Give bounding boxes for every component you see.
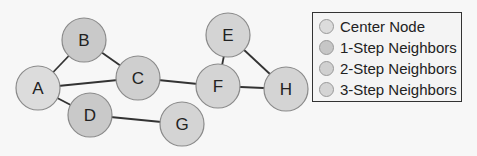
node-label: G <box>175 115 188 134</box>
node-label: A <box>32 79 44 98</box>
legend-swatch-icon <box>319 61 334 76</box>
node-E: E <box>206 13 250 57</box>
legend-label: 2-Step Neighbors <box>340 60 457 77</box>
legend-item-center-node: Center Node <box>319 16 461 37</box>
legend-swatch-icon <box>319 82 334 97</box>
node-label: C <box>132 69 144 88</box>
legend-label: Center Node <box>340 18 425 35</box>
node-label: F <box>213 77 223 96</box>
node-label: H <box>280 80 292 99</box>
legend-item-2-step: 2-Step Neighbors <box>319 58 461 79</box>
legend-item-3-step: 3-Step Neighbors <box>319 79 461 100</box>
node-label: E <box>222 26 233 45</box>
legend: Center Node 1-Step Neighbors 2-Step Neig… <box>312 12 462 102</box>
legend-label: 1-Step Neighbors <box>340 39 457 56</box>
node-label: D <box>84 106 96 125</box>
node-D: D <box>68 93 112 137</box>
node-F: F <box>196 64 240 108</box>
legend-swatch-icon <box>319 40 334 55</box>
node-G: G <box>160 102 204 146</box>
legend-item-1-step: 1-Step Neighbors <box>319 37 461 58</box>
legend-label: 3-Step Neighbors <box>340 81 457 98</box>
node-C: C <box>116 56 160 100</box>
legend-swatch-icon <box>319 19 334 34</box>
node-label: B <box>78 31 89 50</box>
node-A: A <box>16 66 60 110</box>
node-H: H <box>264 67 308 111</box>
node-B: B <box>62 18 106 62</box>
